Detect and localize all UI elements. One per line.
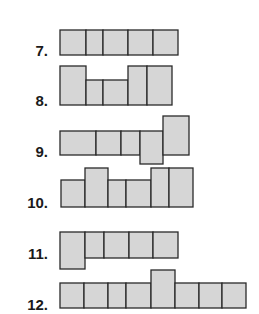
rectangle-cell <box>108 180 126 207</box>
exercise-number: 10. <box>8 195 48 210</box>
rectangle-cell <box>96 131 121 155</box>
rectangle-cell <box>163 116 189 155</box>
figure-8 <box>60 66 172 105</box>
rectangle-cell <box>222 283 246 308</box>
rectangle-cell <box>153 30 178 55</box>
rectangle-cell <box>104 232 129 258</box>
rectangle-cell <box>85 168 108 207</box>
rectangle-cell <box>103 30 128 55</box>
figure-12 <box>60 270 246 308</box>
rectangle-cell <box>151 270 175 308</box>
rectangle-cell <box>147 66 172 105</box>
rectangle-cell <box>84 283 108 308</box>
rectangle-cell <box>60 131 96 155</box>
figure-9 <box>60 116 189 164</box>
rectangle-cell <box>151 168 169 207</box>
rectangle-cell <box>103 80 128 105</box>
rectangle-cell <box>86 80 103 105</box>
rectangle-cell <box>169 168 193 207</box>
rectangle-cell <box>153 232 178 258</box>
rectangle-cell <box>60 283 84 308</box>
exercise-number: 7. <box>8 43 48 58</box>
rectangle-cell <box>60 30 86 55</box>
rectangle-cell <box>128 30 153 55</box>
rectangle-cell <box>61 180 85 207</box>
rectangle-cell <box>60 232 85 269</box>
rectangle-cell <box>85 232 104 258</box>
exercise-number: 11. <box>8 246 48 261</box>
rectangle-cell <box>60 66 86 105</box>
exercise-number: 12. <box>8 297 48 312</box>
rectangle-cell <box>121 131 140 155</box>
exercise-number: 9. <box>8 144 48 159</box>
rectangle-cell <box>199 283 222 308</box>
figure-11 <box>60 232 178 269</box>
rectangle-cell <box>126 283 151 308</box>
rectangle-cell <box>86 30 103 55</box>
rectangle-cell <box>108 283 126 308</box>
figure-10 <box>61 168 193 207</box>
rectangle-cell <box>140 131 163 164</box>
rectangle-cell <box>126 180 151 207</box>
exercise-number: 8. <box>8 93 48 108</box>
rectangle-cell <box>128 66 147 105</box>
rectangle-cell <box>129 232 153 258</box>
figure-7 <box>60 30 178 55</box>
rectangle-cell <box>175 283 199 308</box>
